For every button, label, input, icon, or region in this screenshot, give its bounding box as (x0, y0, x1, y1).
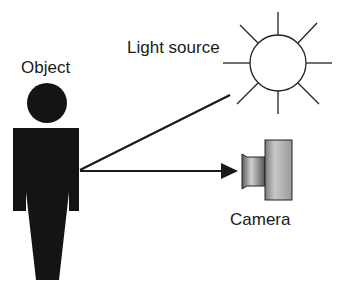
light-ray-line (80, 95, 230, 170)
camera-body (265, 140, 292, 200)
camera-lens (242, 154, 265, 189)
person-body (13, 128, 79, 280)
camera-icon (242, 140, 292, 200)
camera-label: Camera (230, 210, 290, 230)
person-figure (13, 83, 79, 280)
object-label: Object (21, 58, 70, 78)
camera-arrow (80, 163, 238, 179)
sun-icon (223, 12, 332, 114)
person-head (27, 83, 67, 123)
light-source-label: Light source (127, 38, 220, 58)
arrowhead-icon (221, 163, 238, 179)
